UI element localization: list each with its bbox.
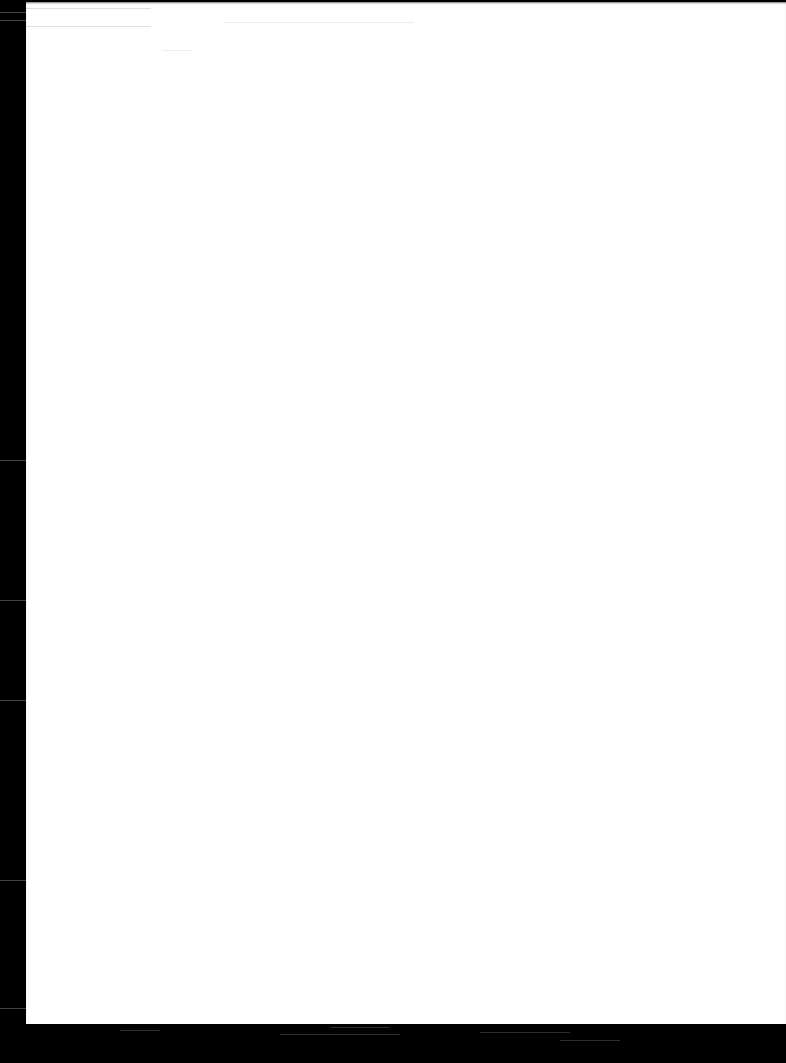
blank-scanned-page — [26, 2, 786, 1024]
scan-artifact — [162, 50, 192, 51]
scan-artifact — [26, 26, 151, 27]
scan-artifact — [224, 22, 414, 23]
scan-artifact — [26, 8, 151, 9]
